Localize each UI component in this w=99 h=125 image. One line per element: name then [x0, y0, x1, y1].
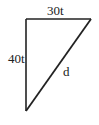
hypotenuse: [26, 19, 91, 111]
hypotenuse-label: d: [63, 64, 70, 79]
left-side-label: 40t: [8, 51, 25, 66]
top-side-label: 30t: [47, 3, 64, 18]
right-triangle-diagram: 30t 40t d: [0, 0, 99, 125]
